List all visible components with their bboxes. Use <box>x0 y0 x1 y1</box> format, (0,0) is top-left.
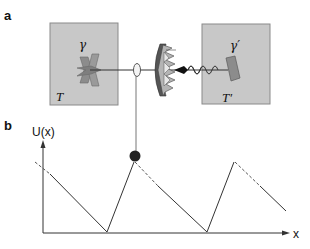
gamma-prime-label: γ′ <box>230 39 240 53</box>
dashed-segment <box>135 162 158 186</box>
gamma-label: γ <box>79 38 87 52</box>
temperature-t-label: T <box>56 89 64 104</box>
slope-segment <box>158 186 207 232</box>
x-axis-label: x <box>293 227 299 241</box>
slope-segment <box>260 186 286 211</box>
temperature-t-prime-label: T′ <box>222 90 232 105</box>
pawl-icon <box>174 66 188 74</box>
x-axis-arrow-icon <box>282 231 290 236</box>
panel-b-label: b <box>4 118 12 133</box>
potential-plot: x <box>35 140 299 241</box>
right-reservoir: γ′ T′ <box>202 24 270 105</box>
steep-segment <box>207 162 234 232</box>
left-reservoir: γ T <box>50 23 118 105</box>
y-axis-label: U(x) <box>32 125 55 139</box>
steep-segment <box>107 162 134 232</box>
figure: a γ T γ′ T′ b U(x) <box>0 0 310 249</box>
y-axis-arrow-icon <box>41 140 46 148</box>
weight-icon <box>130 151 141 162</box>
dashed-segment <box>235 162 260 186</box>
slope-segment <box>50 174 107 232</box>
panel-a-label: a <box>4 8 12 23</box>
pulley-icon <box>134 64 141 77</box>
